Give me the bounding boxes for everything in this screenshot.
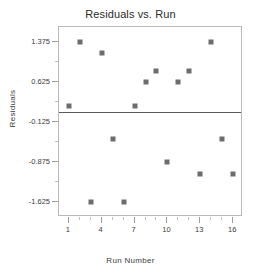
x-tick-mark	[166, 217, 167, 223]
data-point-marker	[176, 79, 181, 84]
plot-area	[58, 26, 242, 216]
x-tick-mark	[199, 217, 200, 223]
data-point-marker	[209, 39, 214, 44]
x-tick-minor-mark	[155, 217, 156, 220]
y-axis-tick-marks	[51, 26, 58, 216]
x-axis-title: Run Number	[0, 256, 261, 265]
y-tick-label: -0.875	[29, 157, 50, 166]
x-axis-tick-labels: 147101316	[58, 225, 242, 237]
x-tick-minor-mark	[221, 217, 222, 220]
data-point-marker	[121, 200, 126, 205]
plot-inner-region	[59, 27, 241, 215]
x-tick-mark	[232, 217, 233, 223]
x-tick-mark	[101, 217, 102, 223]
x-tick-minor-mark	[210, 217, 211, 220]
data-point-marker	[110, 136, 115, 141]
data-point-marker	[143, 79, 148, 84]
x-tick-minor-mark	[145, 217, 146, 220]
residuals-vs-run-chart: Residuals vs. Run 1.3750.625-0.125-0.875…	[0, 0, 261, 278]
data-point-marker	[66, 104, 71, 109]
x-tick-mark	[68, 217, 69, 223]
x-tick-label: 7	[131, 225, 135, 234]
x-tick-mark	[134, 217, 135, 223]
x-axis-tick-marks	[58, 217, 242, 224]
x-tick-label: 16	[228, 225, 236, 234]
data-point-marker	[231, 172, 236, 177]
y-tick-label: 0.625	[31, 76, 50, 85]
y-tick-label: 1.375	[31, 36, 50, 45]
x-tick-minor-mark	[90, 217, 91, 220]
x-tick-label: 10	[162, 225, 170, 234]
chart-title: Residuals vs. Run	[0, 8, 261, 20]
zero-reference-line	[59, 112, 241, 113]
data-point-marker	[77, 39, 82, 44]
data-point-marker	[187, 68, 192, 73]
data-point-marker	[220, 136, 225, 141]
x-tick-label: 1	[66, 225, 70, 234]
x-tick-minor-mark	[188, 217, 189, 220]
data-point-marker	[198, 172, 203, 177]
data-point-marker	[88, 200, 93, 205]
y-tick-label: -0.125	[29, 117, 50, 126]
x-tick-minor-mark	[123, 217, 124, 220]
x-tick-minor-mark	[79, 217, 80, 220]
data-point-marker	[154, 68, 159, 73]
y-axis-title: Residuals	[8, 69, 17, 149]
data-point-marker	[132, 104, 137, 109]
x-tick-minor-mark	[177, 217, 178, 220]
y-tick-label: -1.625	[29, 197, 50, 206]
data-point-marker	[165, 160, 170, 165]
x-tick-label: 4	[99, 225, 103, 234]
x-tick-minor-mark	[112, 217, 113, 220]
x-tick-label: 13	[195, 225, 203, 234]
data-point-marker	[99, 50, 104, 55]
